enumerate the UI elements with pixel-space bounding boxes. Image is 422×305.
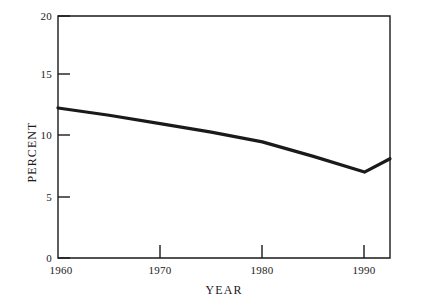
- plot-border: [58, 16, 390, 258]
- x-tick-marks: [160, 245, 364, 258]
- data-series-line: [58, 108, 390, 172]
- y-tick-label-20: 20: [30, 10, 52, 22]
- x-axis-title: YEAR: [205, 283, 242, 298]
- chart-figure: 0 5 10 15 20 1960 1970 1980 1990 PERCENT…: [0, 0, 422, 305]
- chart-plot-area: [0, 0, 422, 305]
- x-tick-label-1980: 1980: [251, 264, 274, 276]
- axis-frame: [58, 16, 390, 258]
- x-tick-label-1970: 1970: [149, 264, 172, 276]
- x-tick-label-1990: 1990: [353, 264, 376, 276]
- y-tick-label-5: 5: [30, 191, 52, 203]
- y-tick-label-0: 0: [30, 252, 52, 264]
- y-tick-label-15: 15: [30, 68, 52, 80]
- y-axis-title: PERCENT: [25, 121, 40, 182]
- y-tick-marks: [58, 16, 70, 258]
- x-tick-label-1960: 1960: [50, 264, 73, 276]
